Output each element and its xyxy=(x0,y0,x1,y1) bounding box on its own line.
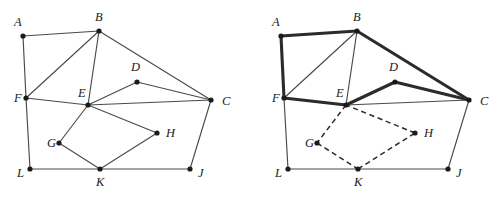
vertex-G xyxy=(314,140,319,145)
edge-FB xyxy=(26,31,99,98)
vertex-label-D: D xyxy=(130,60,140,74)
edge-DC xyxy=(395,82,469,100)
vertex-J xyxy=(445,166,450,171)
edge-GK xyxy=(59,143,100,169)
vertex-C xyxy=(466,97,471,102)
edge-ED xyxy=(88,82,137,105)
vertex-label-K: K xyxy=(353,175,363,189)
vertex-label-J: J xyxy=(456,166,463,180)
original-graph: ABCDEFGHJKL xyxy=(13,10,231,189)
edge-BE xyxy=(346,31,357,105)
vertex-C xyxy=(208,97,213,102)
vertex-label-A: A xyxy=(13,15,22,29)
vertex-label-L: L xyxy=(274,166,282,180)
vertex-B xyxy=(354,28,359,33)
edge-group-dashed xyxy=(317,105,415,169)
vertex-label-C: C xyxy=(222,94,231,108)
vertex-label-E: E xyxy=(335,86,344,100)
edge-FL xyxy=(284,98,288,169)
vertex-label-B: B xyxy=(95,10,103,24)
edge-BE xyxy=(88,31,99,105)
vertex-label-G: G xyxy=(47,136,56,150)
vertex-label-F: F xyxy=(271,91,280,105)
edge-BC xyxy=(99,31,211,100)
edge-FB xyxy=(284,31,357,98)
vertex-L xyxy=(27,166,32,171)
vertex-group: ABCDEFGHJKL xyxy=(13,10,231,189)
vertex-E xyxy=(343,102,348,107)
edge-EG xyxy=(317,105,346,143)
edge-ED xyxy=(346,82,395,105)
vertex-label-A: A xyxy=(271,15,280,29)
edge-group-bold xyxy=(281,31,469,105)
highlighted-graph: ABCDEFGHJKL xyxy=(271,10,489,189)
vertex-K xyxy=(97,166,102,171)
vertex-F xyxy=(23,95,28,100)
vertex-A xyxy=(20,33,25,38)
vertex-J xyxy=(187,166,192,171)
edge-AF xyxy=(281,36,284,98)
vertex-H xyxy=(154,130,159,135)
vertex-label-F: F xyxy=(13,91,22,105)
edge-JC xyxy=(190,100,211,169)
vertex-label-H: H xyxy=(165,126,176,140)
vertex-K xyxy=(355,166,360,171)
edge-EG xyxy=(59,105,88,143)
edge-EC xyxy=(88,100,211,105)
vertex-label-L: L xyxy=(16,166,24,180)
figure-root: ABCDEFGHJKLABCDEFGHJKL xyxy=(0,0,494,199)
edge-HE xyxy=(346,105,415,133)
edge-EC xyxy=(346,100,469,105)
vertex-E xyxy=(85,102,90,107)
vertex-B xyxy=(96,28,101,33)
vertex-D xyxy=(134,79,139,84)
edge-BC xyxy=(357,31,469,100)
edge-HK xyxy=(100,133,157,169)
vertex-label-E: E xyxy=(77,86,86,100)
vertex-H xyxy=(412,130,417,135)
vertex-label-B: B xyxy=(353,10,361,24)
edge-AB xyxy=(281,31,357,36)
vertex-label-J: J xyxy=(198,166,205,180)
vertex-G xyxy=(56,140,61,145)
edge-FL xyxy=(26,98,30,169)
vertex-L xyxy=(285,166,290,171)
vertex-F xyxy=(281,95,286,100)
edge-GK xyxy=(317,143,358,169)
vertex-label-G: G xyxy=(305,136,314,150)
panels-layer: ABCDEFGHJKLABCDEFGHJKL xyxy=(13,10,489,189)
vertex-label-C: C xyxy=(480,94,489,108)
edge-AB xyxy=(23,31,99,36)
edge-DC xyxy=(137,82,211,100)
edge-EH xyxy=(88,105,157,133)
vertex-D xyxy=(392,79,397,84)
edge-JC xyxy=(448,100,469,169)
vertex-label-D: D xyxy=(388,60,398,74)
edge-AF xyxy=(23,36,26,98)
vertex-label-H: H xyxy=(423,126,434,140)
vertex-A xyxy=(278,33,283,38)
graph-diagram-svg: ABCDEFGHJKLABCDEFGHJKL xyxy=(0,0,494,199)
vertex-label-K: K xyxy=(95,175,105,189)
edge-KH xyxy=(358,133,415,169)
